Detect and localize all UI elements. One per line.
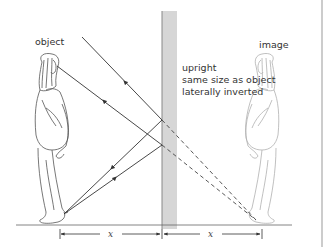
object-figure (35, 53, 68, 223)
object-label: object (35, 36, 64, 48)
property-same-size: same size as object (182, 74, 275, 86)
image-distance-label: x (206, 229, 215, 239)
property-laterally-inverted: laterally inverted (182, 86, 275, 98)
plane-mirror (162, 11, 177, 229)
light-rays (57, 37, 162, 214)
image-properties: upright same size as object laterally in… (182, 62, 275, 98)
distance-markers (60, 229, 262, 239)
object-distance-label: x (106, 229, 115, 239)
property-upright: upright (182, 62, 275, 74)
image-label: image (259, 39, 289, 51)
